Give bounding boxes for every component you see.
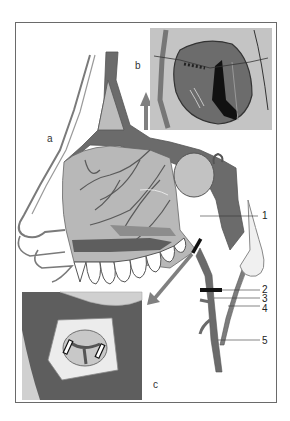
lingual-twig [200,300,210,302]
external-carotid-branch [220,264,248,345]
inset-c [22,292,142,400]
mandible-ramus [240,200,264,276]
panel-label-b: b [135,61,141,71]
hard-palate [72,238,172,252]
panel-label-a: a [47,134,53,144]
facial-twig [200,320,210,334]
callout-5: 5 [262,336,268,346]
inset-b [150,28,272,130]
callout-1: 1 [262,211,268,221]
lip-outline [18,236,72,282]
sphenoid-sinus [174,153,214,197]
maxillary-artery [196,248,222,372]
sinonasal-anatomy-illustration [0,0,290,421]
carotid-ligature [200,288,222,292]
callout-4: 4 [262,304,268,314]
panel-label-c: c [153,380,158,390]
